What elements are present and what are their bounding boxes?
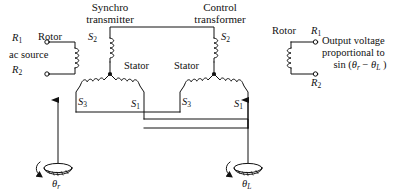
control-S1-branch: [215, 75, 248, 128]
title-control-transformer: Control transformer: [163, 1, 277, 26]
label-S2-control: S2: [221, 31, 230, 44]
right-rotor-circuit: [287, 40, 317, 76]
output-suffix: ): [380, 59, 386, 70]
label-R1-left-sub: 1: [18, 36, 22, 45]
label-R2-right: R2: [311, 77, 321, 90]
label-S3-control-sub: 3: [187, 100, 191, 109]
output-voltage-annotation: Output voltage proportional to sin (θr −…: [322, 35, 398, 72]
output-minus: −: [360, 59, 371, 70]
stator-interconnect-wires: [76, 112, 248, 128]
label-S1-control-sub: 1: [239, 102, 243, 111]
title-control-line1: Control: [163, 1, 277, 13]
label-ac-source: ac source: [9, 49, 48, 61]
title-synchro-transmitter: Synchro transmitter: [55, 1, 165, 26]
output-line-1: Output voltage: [322, 35, 398, 47]
label-S2-transmitter-sub: 2: [93, 35, 97, 44]
label-R2-left-sub: 2: [18, 68, 22, 77]
label-S1-control: S1: [234, 98, 243, 111]
left-rotor-coil: [75, 48, 79, 68]
title-control-line2: transformer: [163, 13, 277, 25]
circuit-schematic-svg: [0, 0, 398, 191]
label-R2-right-sub: 2: [317, 81, 321, 90]
label-stator-control: Stator: [174, 60, 199, 72]
label-R2-left: R2: [12, 64, 22, 77]
output-line-3: sin (θr − θL ): [322, 59, 398, 72]
label-R1-left: R1: [12, 32, 22, 45]
label-S3-transmitter: S3: [78, 96, 87, 109]
title-synchro-line2: transmitter: [55, 13, 165, 25]
left-rotor-disc: [36, 162, 72, 176]
title-synchro-line1: Synchro: [55, 1, 165, 13]
label-S1-transmitter-sub: 1: [136, 102, 140, 111]
label-S3-transmitter-sub: 3: [83, 100, 87, 109]
terminal-R2-left: [45, 72, 49, 76]
label-rotor-right: Rotor: [272, 25, 296, 37]
label-theta-r: θr: [52, 178, 60, 191]
label-S3-control: S3: [182, 96, 191, 109]
label-stator-transmitter: Stator: [124, 60, 149, 72]
label-S1-transmitter: S1: [131, 98, 140, 111]
label-theta-L: θL: [242, 178, 251, 191]
synchro-circuit-diagram: Synchro transmitter Control transformer …: [0, 0, 398, 191]
label-S2-control-sub: 2: [226, 35, 230, 44]
control-stator: [180, 38, 248, 128]
label-rotor-left: Rotor: [38, 31, 62, 43]
terminal-R2-right: [313, 72, 317, 76]
output-line-2: proportional to: [322, 47, 398, 59]
label-theta-r-sub: r: [57, 182, 60, 191]
label-S2-transmitter: S2: [88, 31, 97, 44]
terminal-R1-right: [313, 40, 317, 44]
right-rotor-coil: [287, 48, 291, 68]
right-rotor-disc: [226, 162, 262, 176]
shaft-indicators: [58, 100, 248, 168]
wire-S1-to-S1: [144, 119, 248, 128]
label-theta-L-sub: L: [247, 182, 251, 191]
output-sin-prefix: sin (: [333, 59, 351, 70]
label-R1-right: R1: [311, 25, 321, 38]
label-R1-right-sub: 1: [317, 29, 321, 38]
left-rotor-circuit: [45, 40, 79, 76]
